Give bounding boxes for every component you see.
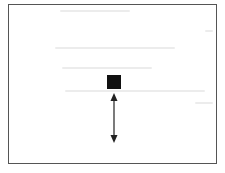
faint-text-line bbox=[195, 102, 213, 104]
faint-text-line bbox=[205, 30, 213, 32]
faint-text-line bbox=[62, 67, 152, 69]
double-arrow-icon bbox=[108, 93, 120, 143]
faint-text-line bbox=[65, 90, 205, 92]
faint-text-line bbox=[55, 47, 175, 49]
faint-text-line bbox=[60, 10, 130, 12]
black-square-marker bbox=[107, 75, 121, 89]
